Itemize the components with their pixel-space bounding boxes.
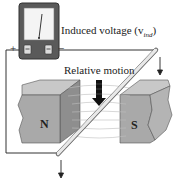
plus-terminal-label: + [10, 42, 16, 54]
south-pole-label: S [131, 118, 138, 133]
north-pole-label: N [40, 117, 49, 132]
voltmeter [19, 3, 59, 59]
minus-terminal-label: − [58, 42, 64, 54]
induction-diagram: Induced voltage (vind) Relative motion +… [0, 0, 187, 182]
south-magnet [120, 80, 172, 143]
relative-motion-label: Relative motion [64, 64, 135, 76]
plus-terminal [24, 45, 31, 54]
induced-voltage-label: Induced voltage (vind) [61, 24, 156, 39]
minus-terminal [45, 45, 52, 54]
north-magnet [18, 80, 80, 143]
